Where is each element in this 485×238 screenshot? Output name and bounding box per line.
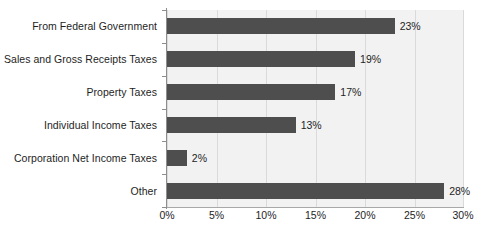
bar-from-federal-government[interactable] — [167, 18, 395, 34]
category-slot: Other — [0, 174, 163, 207]
bar-value-label-property-taxes: 17% — [340, 86, 361, 98]
x-tick-label-5: 5% — [209, 209, 224, 222]
x-tick-label-0: 0% — [159, 209, 174, 222]
x-axis-line — [167, 207, 464, 208]
category-label-sales-and-gross-receipts-taxes: Sales and Gross Receipts Taxes — [4, 53, 157, 65]
category-slot: Individual Income Taxes — [0, 108, 163, 141]
bar-row-property-taxes: 17% — [167, 76, 464, 109]
x-tick-label-20: 20% — [354, 209, 375, 222]
category-label-other: Other — [130, 185, 157, 197]
category-label-individual-income-taxes: Individual Income Taxes — [44, 119, 157, 131]
category-tick — [162, 207, 167, 208]
x-tick-label-25: 25% — [404, 209, 425, 222]
bar-individual-income-taxes[interactable] — [167, 117, 296, 133]
bar-value-label-sales-and-gross-receipts-taxes: 19% — [360, 53, 381, 65]
category-label-corporation-net-income-taxes: Corporation Net Income Taxes — [14, 152, 157, 164]
bar-row-from-federal-government: 23% — [167, 10, 464, 43]
x-tick-label-10: 10% — [255, 209, 276, 222]
bar-row-individual-income-taxes: 13% — [167, 109, 464, 142]
bar-chart: From Federal Government Sales and Gross … — [0, 0, 485, 238]
bar-row-other: 28% — [167, 174, 464, 207]
category-label-property-taxes: Property Taxes — [86, 86, 157, 98]
category-slot: Sales and Gross Receipts Taxes — [0, 43, 163, 76]
bar-row-sales-and-gross-receipts-taxes: 19% — [167, 43, 464, 76]
x-tick-label-30: 30% — [452, 209, 473, 222]
bar-value-label-from-federal-government: 23% — [400, 20, 421, 32]
category-slot: Property Taxes — [0, 76, 163, 109]
bar-value-label-individual-income-taxes: 13% — [301, 119, 322, 131]
category-slot: From Federal Government — [0, 10, 163, 43]
category-axis: From Federal Government Sales and Gross … — [0, 10, 163, 207]
bar-other[interactable] — [167, 183, 444, 199]
x-tick-label-15: 15% — [305, 209, 326, 222]
bar-value-label-other: 28% — [449, 185, 470, 197]
bar-corporation-net-income-taxes[interactable] — [167, 150, 187, 166]
bar-row-corporation-net-income-taxes: 2% — [167, 141, 464, 174]
bars-layer: 23% 19% 17% 13% 2% 28% — [167, 10, 464, 207]
category-slot: Corporation Net Income Taxes — [0, 141, 163, 174]
bar-value-label-corporation-net-income-taxes: 2% — [192, 152, 207, 164]
bar-sales-and-gross-receipts-taxes[interactable] — [167, 51, 355, 67]
bar-property-taxes[interactable] — [167, 84, 335, 100]
value-axis: 0% 5% 10% 15% 20% 25% 30% — [167, 209, 464, 227]
category-label-from-federal-government: From Federal Government — [32, 20, 157, 32]
